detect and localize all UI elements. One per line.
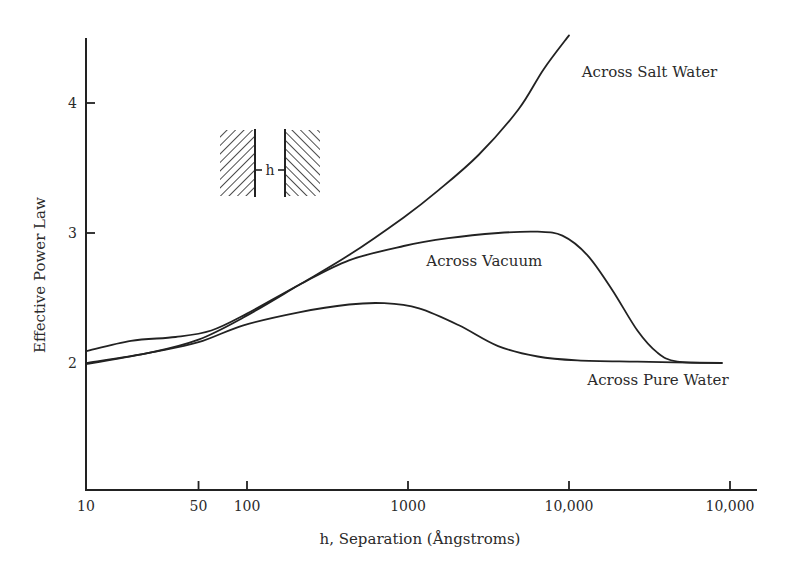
curve-across-vacuum: [86, 232, 722, 363]
curve-across-salt-water: [86, 35, 569, 363]
left-plate-hatch: [220, 130, 255, 196]
y-tick-label: 3: [68, 225, 77, 241]
inset-plates-diagram: h: [220, 129, 320, 197]
x-tick-label: 50: [190, 498, 208, 514]
axes: [85, 38, 757, 491]
series-label-across-salt-water: Across Salt Water: [581, 63, 718, 81]
x-tick-label: 10,000: [706, 498, 755, 514]
curves: [86, 35, 722, 364]
x-tick-label: 10: [77, 498, 95, 514]
series-labels: Across Salt WaterAcross VacuumAcross Pur…: [425, 63, 729, 389]
series-label-across-vacuum: Across Vacuum: [425, 252, 542, 270]
y-tick-label: 2: [68, 355, 77, 371]
ticks: 1050100100010,00010,000234: [68, 95, 754, 514]
x-axis-title: h, Separation (Ångstroms): [320, 530, 521, 548]
x-tick-label: 1000: [390, 498, 426, 514]
y-tick-label: 4: [68, 95, 77, 111]
y-axis-title: Effective Power Law: [31, 197, 49, 353]
x-tick-label: 10,000: [545, 498, 594, 514]
gap-label: h: [265, 162, 274, 178]
series-label-across-pure-water: Across Pure Water: [586, 371, 729, 389]
x-tick-label: 100: [234, 498, 261, 514]
right-plate-hatch: [285, 130, 320, 196]
chart: 1050100100010,00010,000234 Across Salt W…: [0, 0, 788, 572]
